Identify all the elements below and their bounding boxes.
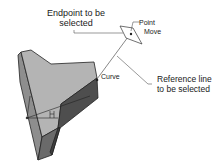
curve-endpoint-marker xyxy=(96,79,99,82)
curve-label: Curve xyxy=(101,73,120,80)
endpoint-label: Endpoint to be selected xyxy=(46,9,106,28)
reference-label: Reference line to be selected xyxy=(157,74,212,94)
point-marker xyxy=(130,33,132,35)
solid-body xyxy=(18,50,98,160)
endpoint-label-line1: Endpoint to be xyxy=(46,9,106,18)
reference-label-line2: to be selected xyxy=(157,84,212,94)
move-label: Move xyxy=(144,28,161,35)
reference-label-line1: Reference line xyxy=(157,74,212,84)
endpoint-label-line2: selected xyxy=(46,19,106,28)
point-label: Point xyxy=(139,19,155,26)
